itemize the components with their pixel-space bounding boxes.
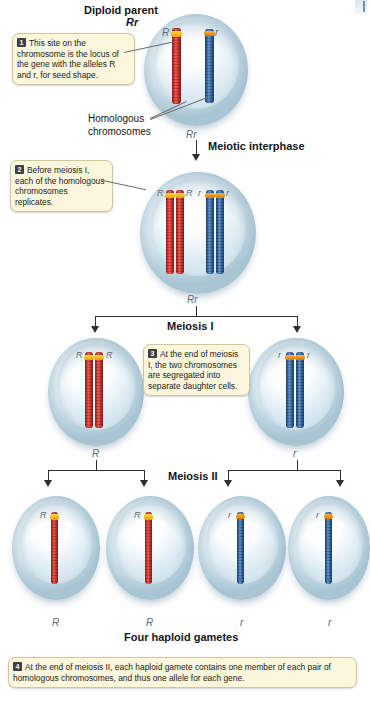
locus-band-blue-left: [205, 193, 215, 198]
meiosis1-right-allele-right: r: [307, 350, 310, 360]
parent-red-allele-label: R: [162, 27, 169, 38]
four-haploid-gametes-label: Four haploid gametes: [124, 631, 238, 643]
interphase-red-left-allele: R: [157, 188, 164, 198]
gamete-4-below-label: r: [328, 617, 331, 628]
meiosis1-right-below-label: r: [293, 448, 296, 459]
gamete-2-chromosome: [145, 512, 152, 584]
parent-chromosome-red: [172, 28, 181, 104]
meiosis1-left-arrowhead: [91, 326, 99, 333]
callout-1: 1This site on the chromosome is the locu…: [12, 33, 135, 85]
meiosis1-right-chromatid-b: [296, 352, 304, 428]
diploid-parent-cell: [144, 14, 248, 126]
meiosis1-left-allele-right: R: [106, 350, 113, 360]
meiosis1-left-chromatid-b: [95, 352, 103, 428]
locus-band-red: [171, 31, 182, 37]
gamete-4-locus-band: [324, 514, 333, 519]
meiosis1-label: Meiosis I: [167, 320, 213, 332]
meiosis1-right-chromatid-a: [286, 352, 294, 428]
meiosis1-left-allele-left: R: [76, 350, 83, 360]
gamete-3-below-label: r: [240, 617, 243, 628]
interphase-label: Meiotic interphase: [208, 140, 305, 152]
locus-band-red-left: [165, 193, 175, 198]
diploid-parent-genotype: Rr: [126, 16, 138, 28]
meiosis1-left-below-label: R: [92, 448, 99, 459]
parent-chromosome-blue: [205, 29, 214, 103]
meiosis2-arrowhead-1: [44, 480, 52, 487]
meiosis1-bracket: [95, 316, 297, 317]
locus-band-blue-right: [215, 193, 225, 198]
meiosis1-left-chromatid-a: [85, 352, 93, 428]
meiosis2-arrowhead-4: [336, 480, 344, 487]
gamete-3-allele: r: [228, 510, 231, 520]
gamete-3-chromosome: [237, 512, 244, 584]
parent-blue-allele-label: r: [215, 27, 218, 38]
meiosis2-right-stem: [297, 460, 298, 470]
gamete-1-allele: R: [40, 510, 47, 520]
gamete-2-below-label: R: [146, 617, 153, 628]
gamete-4-allele: r: [316, 510, 319, 520]
callout-3: 3At the end of meiosis I, the two chromo…: [143, 344, 250, 396]
callout-3-number: 3: [148, 349, 157, 358]
diploid-parent-title: Diploid parent: [84, 4, 158, 16]
homologous-label-line1: Homologous: [88, 113, 144, 124]
interphase-chromatid-blue-right: [216, 190, 224, 274]
meiosis2-label: Meiosis II: [168, 470, 218, 482]
callout-1-number: 1: [17, 38, 26, 47]
gamete-4-chromosome: [325, 512, 332, 584]
callout-1-text: This site on the chromosome is the locus…: [17, 38, 119, 80]
meiosis2-left-bracket: [48, 470, 144, 471]
callout-2-text: Before meiosis I, each of the homologous…: [15, 165, 104, 207]
interphase-chromatid-red-right: [176, 190, 184, 274]
gamete-1-below-label: R: [52, 617, 59, 628]
meiosis1-right-arrowhead: [293, 326, 301, 333]
gamete-3-locus-band: [236, 514, 245, 519]
meiosis2-arrowhead-3: [224, 480, 232, 487]
interphase-genotype: Rr: [186, 129, 197, 140]
gamete-2-locus-band: [144, 514, 153, 520]
meiosis2-left-stem: [96, 460, 97, 470]
callout-3-text: At the end of meiosis I, the two chromos…: [148, 349, 238, 391]
interphase-arrow-head: [192, 154, 200, 161]
locus-band-blue: [204, 31, 215, 36]
gamete-1-chromosome: [51, 512, 58, 584]
meiosis2-arrowhead-2: [140, 480, 148, 487]
meiosis1-genotype: Rr: [187, 294, 198, 305]
locus-band-red-right: [175, 193, 185, 198]
homologous-label-line2: chromosomes: [88, 126, 151, 137]
page-corner-mark: [355, 0, 367, 14]
interphase-blue-left-allele: r: [198, 188, 201, 198]
meiosis2-right-bracket: [228, 470, 340, 471]
meiosis1-right-allele-left: r: [278, 350, 281, 360]
gamete-1-locus-band: [50, 514, 59, 520]
callout-4-number: 4: [13, 662, 22, 671]
interphase-blue-right-allele: r: [226, 188, 229, 198]
meiosis1-stem: [196, 306, 197, 316]
interphase-chromatid-blue-left: [206, 190, 214, 274]
callout-2-number: 2: [15, 165, 24, 174]
callout-2: 2Before meiosis I, each of the homologou…: [10, 160, 113, 212]
interphase-chromatid-red-left: [166, 190, 174, 274]
callout-4: 4At the end of meiosis II, each haploid …: [8, 657, 357, 688]
callout-4-text: At the end of meiosis II, each haploid g…: [13, 662, 331, 683]
gamete-2-allele: R: [134, 510, 141, 520]
interphase-red-right-allele: R: [186, 188, 193, 198]
